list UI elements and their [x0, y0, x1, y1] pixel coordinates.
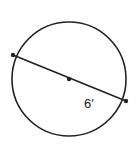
center-point — [67, 77, 71, 81]
radius-length-label: 6′ — [84, 96, 94, 111]
endpoint-left — [11, 53, 15, 57]
circle-diagram: 6′ — [0, 0, 137, 149]
endpoint-right — [124, 99, 128, 103]
